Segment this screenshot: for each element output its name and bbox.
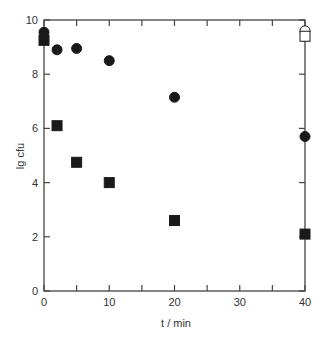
data-points <box>39 26 310 239</box>
y-tick-label: 10 <box>26 14 38 26</box>
x-tick-label: 30 <box>234 296 246 308</box>
filled-circle-point <box>52 45 62 55</box>
plot-frame <box>44 20 305 291</box>
x-tick-label: 20 <box>168 296 180 308</box>
y-tick-label: 8 <box>32 68 38 80</box>
filled-circle-point <box>170 92 180 102</box>
y-tick-label: 6 <box>32 122 38 134</box>
filled-circle-point <box>104 56 114 66</box>
y-tick-label: 2 <box>32 231 38 243</box>
x-tick-label: 10 <box>103 296 115 308</box>
open-square-point <box>300 31 310 41</box>
x-axis-label: t / min <box>161 317 191 329</box>
scatter-chart: 0102030400246810 t / min lg cfu <box>0 0 327 343</box>
y-axis-label: lg cfu <box>14 143 26 169</box>
tick-labels: 0102030400246810 <box>26 14 311 308</box>
filled-square-point <box>104 178 114 188</box>
y-tick-label: 4 <box>32 177 38 189</box>
x-tick-label: 0 <box>41 296 47 308</box>
filled-square-point <box>52 121 62 131</box>
axis-ticks <box>44 20 305 291</box>
filled-circle-point <box>300 132 310 142</box>
filled-square-point <box>300 229 310 239</box>
filled-square-point <box>170 216 180 226</box>
filled-square-point <box>39 35 49 45</box>
y-tick-label: 0 <box>32 285 38 297</box>
plot-border <box>44 20 305 291</box>
filled-square-point <box>72 157 82 167</box>
filled-circle-point <box>72 43 82 53</box>
x-tick-label: 40 <box>299 296 311 308</box>
